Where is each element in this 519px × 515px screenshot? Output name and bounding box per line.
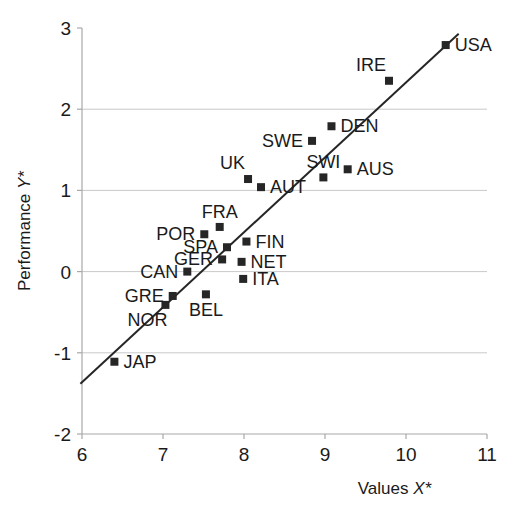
point-label-nor: NOR: [127, 310, 167, 330]
x-tick-label-10: 10: [395, 444, 416, 465]
data-point-gre[interactable]: [169, 292, 177, 300]
y-tick-label-0: 0: [60, 262, 71, 283]
y-tick-label-2: 2: [60, 99, 71, 120]
data-point-aus[interactable]: [344, 165, 352, 173]
point-label-swe: SWE: [262, 131, 303, 151]
data-point-swe[interactable]: [308, 137, 316, 145]
data-point-swi[interactable]: [319, 173, 327, 181]
data-point-fin[interactable]: [242, 238, 250, 246]
point-label-ger: GER: [174, 249, 213, 269]
point-label-fra: FRA: [202, 202, 238, 222]
point-label-fin: FIN: [255, 232, 284, 252]
data-point-aut[interactable]: [257, 183, 265, 191]
y-tick-labels: 3210-1-2: [54, 18, 71, 445]
x-tick-label-7: 7: [158, 444, 169, 465]
point-label-usa: USA: [455, 35, 492, 55]
x-tick-labels: 67891011: [77, 444, 497, 465]
data-point-fra[interactable]: [216, 223, 224, 231]
point-label-uk: UK: [220, 153, 245, 173]
y-tick-label--1: -1: [54, 343, 71, 364]
data-point-ita[interactable]: [239, 275, 247, 283]
trendline-group: [80, 34, 458, 384]
point-label-ire: IRE: [356, 55, 386, 75]
data-point-jap[interactable]: [110, 358, 118, 366]
data-point-den[interactable]: [327, 122, 335, 130]
y-tick-label-3: 3: [60, 18, 71, 39]
point-label-gre: GRE: [125, 286, 164, 306]
point-label-aut: AUT: [270, 177, 306, 197]
point-label-bel: BEL: [189, 300, 223, 320]
data-point-ire[interactable]: [385, 77, 393, 85]
data-point-spa[interactable]: [223, 243, 231, 251]
x-tick-label-9: 9: [320, 444, 331, 465]
regression-line: [80, 34, 458, 384]
data-point-ger[interactable]: [218, 255, 226, 263]
scatter-chart: 67891011 3210-1-2 USAIREDENSWEAUSSWIUKAU…: [0, 0, 519, 515]
y-tick-label--2: -2: [54, 424, 71, 445]
axes-group: [82, 28, 487, 434]
point-label-can: CAN: [140, 262, 178, 282]
point-label-ita: ITA: [252, 269, 279, 289]
x-tick-label-8: 8: [239, 444, 250, 465]
data-point-bel[interactable]: [202, 290, 210, 298]
point-label-den: DEN: [340, 116, 378, 136]
plot-svg: 67891011 3210-1-2 USAIREDENSWEAUSSWIUKAU…: [0, 0, 519, 515]
x-axis-title-variable: X*: [412, 479, 432, 498]
x-axis-title: Values X*: [358, 479, 433, 498]
x-tick-label-11: 11: [477, 444, 497, 465]
y-axis-title-main: Performance: [15, 189, 34, 291]
data-point-labels-group: USAIREDENSWEAUSSWIUKAUTFRAPORFINSPAGERNE…: [123, 35, 491, 372]
y-axis-title: Performance Y*: [15, 170, 34, 291]
x-axis-title-main: Values: [358, 479, 413, 498]
data-point-net[interactable]: [238, 258, 246, 266]
point-label-jap: JAP: [123, 352, 156, 372]
point-label-aus: AUS: [357, 159, 394, 179]
point-label-swi: SWI: [306, 152, 340, 172]
y-tick-label-1: 1: [60, 180, 71, 201]
y-axis-title-variable: Y*: [15, 170, 34, 189]
x-tick-label-6: 6: [77, 444, 88, 465]
data-point-uk[interactable]: [244, 175, 252, 183]
data-point-usa[interactable]: [442, 41, 450, 49]
